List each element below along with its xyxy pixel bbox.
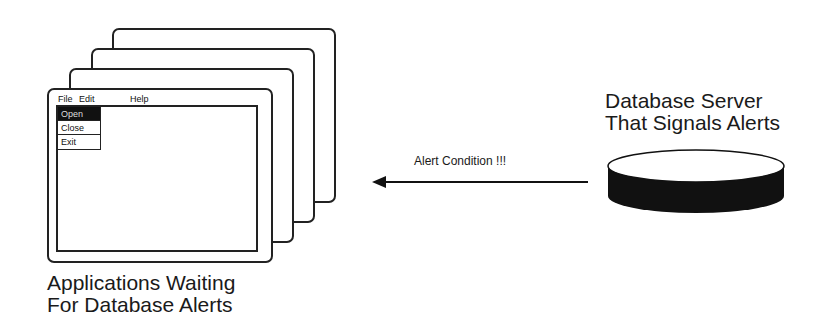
database-caption-line1: Database Server bbox=[605, 90, 780, 112]
database-caption: Database Server That Signals Alerts bbox=[605, 90, 780, 134]
database-cylinder-icon bbox=[0, 0, 830, 332]
database-caption-line2: That Signals Alerts bbox=[605, 112, 780, 134]
